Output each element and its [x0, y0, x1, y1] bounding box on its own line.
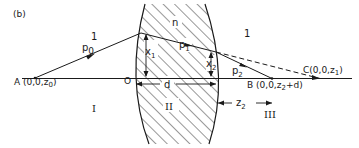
ray-p2-label: p2	[232, 65, 243, 79]
point-c-arrow-icon	[312, 75, 320, 80]
lens-body	[120, 0, 240, 148]
distance-d-label: d	[164, 79, 170, 90]
panel-label: (b)	[13, 9, 26, 19]
right-medium-index: 1	[244, 28, 250, 39]
lens-index-label: n	[172, 17, 178, 28]
ray-p0-label: p0	[82, 42, 94, 56]
region-3-label: III	[264, 109, 276, 120]
region-1-label: I	[92, 103, 96, 114]
point-o-label: O	[124, 76, 131, 86]
point-b-label: B (0,0,z2+d)	[247, 80, 303, 92]
region-2-label: II	[165, 101, 173, 112]
point-c-label: C(0,0,z1)	[303, 65, 343, 77]
left-medium-index: 1	[91, 31, 97, 42]
distance-z2-label: z2	[236, 97, 246, 111]
lens-ray-diagram: (b)	[0, 0, 359, 148]
